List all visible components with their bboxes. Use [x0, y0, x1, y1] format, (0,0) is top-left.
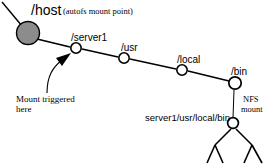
node-usr[interactable]: [119, 53, 129, 63]
autofs-annotation: (autofs mount point): [63, 7, 133, 16]
callout-leader-line: [47, 60, 62, 93]
node-label-server1: /server1: [71, 33, 107, 44]
diagram-canvas: /host (autofs mount point) /server1 /usr…: [0, 0, 272, 164]
node-local[interactable]: [177, 65, 187, 75]
callout-text-line2: here: [16, 105, 32, 114]
edge-server1-usr: [82, 49, 118, 57]
nfs-mount-label-line2: mount: [241, 105, 263, 114]
node-label-bin: /bin: [231, 67, 247, 78]
nfs-mount-label-line1: NFS: [243, 95, 259, 104]
diagram-graphics: [0, 0, 272, 164]
remote-path-label: server1/usr/local/bin: [145, 113, 230, 123]
node-server1[interactable]: [71, 43, 81, 53]
node-host[interactable]: [17, 22, 40, 45]
remote-subtree: [207, 129, 262, 163]
incoming-edge: [2, 2, 22, 26]
nfs-link-line: [233, 90, 234, 118]
node-label-local: /local: [177, 55, 200, 66]
edge-usr-local: [130, 59, 176, 69]
edge-local-bin: [188, 71, 229, 81]
edge-host-server1: [37, 39, 70, 47]
node-label-host: /host: [31, 3, 61, 18]
node-label-usr: /usr: [121, 43, 138, 54]
node-bin[interactable]: [229, 77, 241, 89]
